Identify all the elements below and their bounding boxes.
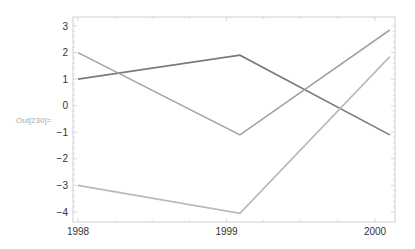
y-tick-label: 0 (62, 100, 68, 111)
y-tick-label: −3 (57, 180, 69, 191)
x-tick-label: 1998 (67, 226, 90, 237)
plot-frame (73, 17, 395, 222)
y-tick-label: 2 (62, 47, 68, 58)
y-tick-label: −2 (57, 153, 69, 164)
y-tick-label: 3 (62, 21, 68, 32)
x-tick-label: 1999 (215, 226, 238, 237)
y-tick-label: 1 (62, 74, 68, 85)
y-tick-label: −1 (57, 127, 69, 138)
x-tick-label: 2000 (364, 226, 387, 237)
data-line-series-3 (78, 57, 390, 214)
y-tick-label: −4 (57, 207, 69, 218)
data-line-series-2 (78, 30, 390, 135)
data-line-series-1 (78, 55, 390, 135)
line-chart: 3210−1−2−3−4199819992000 (0, 0, 415, 249)
